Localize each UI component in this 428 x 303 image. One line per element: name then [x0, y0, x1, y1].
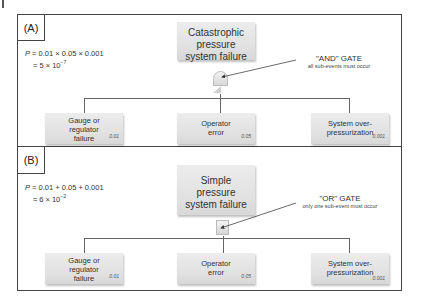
or-gate-title: "OR" GATE [290, 194, 390, 203]
and-gate-subtitle: all sub-events must occur [298, 63, 380, 69]
sub-event-operator-error-a: Operator error 0.05 [177, 113, 255, 144]
sub-event-over-pressurization-b: System over- pressurization 0.001 [311, 253, 389, 284]
probability-value: 0.01 [109, 272, 119, 281]
or-gate-subtitle: only one sub-event must occur [290, 203, 390, 209]
probability-value: 0.001 [372, 132, 385, 141]
and-gate-title: "AND" GATE [298, 54, 380, 63]
and-gate-note: "AND" GATE all sub-events must occur [298, 54, 380, 69]
sub-event-gauge-failure-b: Gauge or regulator failure 0.01 [45, 253, 123, 284]
probability-value: 0.05 [241, 132, 251, 141]
probability-value: 0.05 [241, 272, 251, 281]
sub-event-operator-error-b: Operator error 0.05 [177, 253, 255, 284]
sub-event-gauge-failure-a: Gauge or regulator failure 0.01 [45, 113, 123, 144]
probability-value: 0.01 [109, 132, 119, 141]
or-gate-note: "OR" GATE only one sub-event must occur [290, 194, 390, 209]
sub-event-over-pressurization-a: System over- pressurization 0.001 [311, 113, 389, 144]
probability-value: 0.001 [372, 274, 385, 283]
